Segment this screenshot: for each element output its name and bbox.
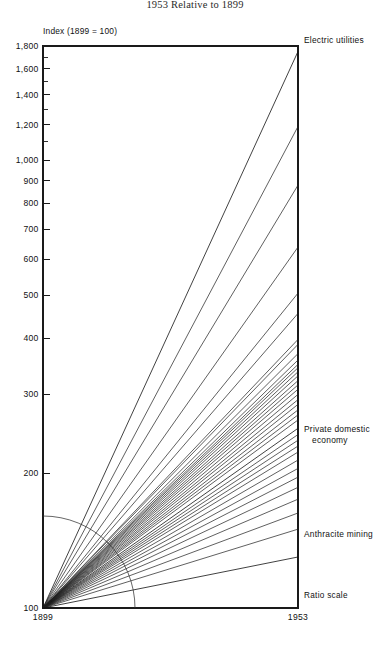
- y-tick-label: 700: [23, 224, 38, 234]
- series-line: [43, 452, 298, 608]
- chart-root: 1953 Relative to 1899 Index (1899 = 100)…: [0, 0, 390, 653]
- y-tick-label: 900: [23, 176, 38, 186]
- index-fan-chart: 1953 Relative to 1899 Index (1899 = 100)…: [0, 0, 390, 653]
- y-tick-label: 1,800: [16, 41, 39, 51]
- y-axis-tick-labels: 1002003004005006007008009001,0001,2001,4…: [16, 41, 39, 613]
- annotation-anthracite-mining: Anthracite mining: [304, 529, 373, 539]
- y-tick-label: 200: [23, 468, 38, 478]
- series-line: [43, 381, 298, 608]
- y-tick-label: 600: [23, 254, 38, 264]
- x-axis-start-label: 1899: [33, 612, 53, 622]
- series-line: [43, 372, 298, 608]
- series-line: [43, 460, 298, 608]
- series-line-labeled: [43, 428, 298, 608]
- annotation-electric-utilities: Electric utilities: [304, 35, 364, 45]
- annotation-private-domestic-economy-line1: Private domestic: [304, 424, 370, 434]
- y-axis-title: Index (1899 = 100): [43, 26, 117, 36]
- chart-title: 1953 Relative to 1899: [146, 0, 243, 10]
- x-axis-end-label: 1953: [288, 612, 308, 622]
- y-tick-label: 1,600: [16, 64, 39, 74]
- series-line: [43, 410, 298, 608]
- y-tick-label: 1,200: [16, 120, 39, 130]
- y-tick-label: 300: [23, 389, 38, 399]
- series-line: [43, 185, 298, 608]
- series-line: [43, 126, 298, 608]
- series-line: [43, 364, 298, 608]
- y-tick-label: 1,400: [16, 90, 39, 100]
- series-line: [43, 368, 298, 608]
- series-line: [43, 404, 298, 608]
- series-line: [43, 468, 298, 608]
- y-tick-label: 800: [23, 198, 38, 208]
- series-line: [43, 354, 298, 608]
- series-line: [43, 420, 298, 608]
- y-tick-label: 500: [23, 290, 38, 300]
- ratio-scale-note: Ratio scale: [304, 591, 348, 600]
- y-axis-ticks: [43, 46, 50, 608]
- annotation-private-domestic-economy-line2: economy: [312, 435, 348, 445]
- series-line: [43, 394, 298, 608]
- y-tick-label: 1,000: [16, 155, 39, 165]
- series-line: [43, 487, 298, 608]
- y-axis-minor-ticks: [43, 57, 48, 142]
- series-line: [43, 339, 298, 608]
- y-tick-label: 400: [23, 333, 38, 343]
- series-line: [43, 415, 298, 608]
- series-line: [43, 400, 298, 608]
- series-line: [43, 376, 298, 608]
- series-line: [43, 389, 298, 608]
